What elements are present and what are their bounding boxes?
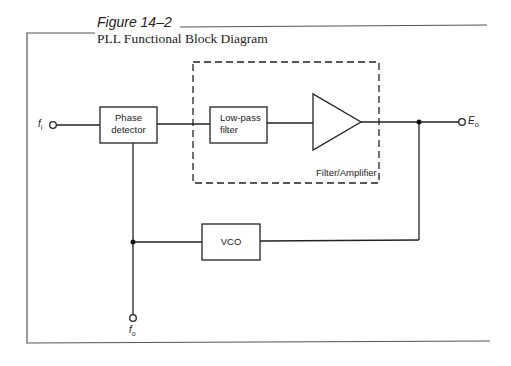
vco-label: VCO [202, 236, 260, 248]
vco-output-terminal [130, 315, 137, 322]
phase-detector-label: Phase detector [100, 112, 157, 136]
phase-detector-line1: Phase [100, 112, 157, 124]
block-diagram-canvas [0, 0, 511, 366]
phase-detector-line2: detector [100, 124, 157, 136]
figure-title: PLL Functional Block Diagram [97, 31, 268, 47]
output-subscript: o [475, 121, 479, 128]
low-pass-filter-line1: Low-pass [220, 112, 261, 124]
figure-label: Figure 14–2 [97, 14, 172, 30]
low-pass-filter-line2: filter [220, 124, 261, 136]
amplifier-triangle [313, 94, 361, 150]
output-label: Eo [468, 115, 479, 128]
output-junction-dot [417, 120, 422, 125]
input-subscript: i [41, 124, 43, 131]
output-terminal [459, 119, 466, 126]
output-symbol: E [468, 115, 475, 126]
figure-frame [27, 25, 490, 343]
vco-output-label: fo [129, 324, 136, 337]
filter-amplifier-label: Filter/Amplifier [316, 167, 377, 179]
feedback-junction-dot [131, 240, 136, 245]
vco-output-subscript: o [132, 330, 136, 337]
low-pass-filter-label: Low-pass filter [220, 112, 261, 136]
input-label: fi [38, 118, 42, 131]
input-terminal [50, 122, 57, 129]
